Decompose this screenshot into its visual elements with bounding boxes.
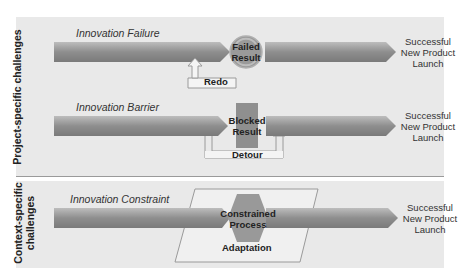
row-title-constraint: Innovation Constraint [70, 193, 169, 205]
context-label-line2: challenges [24, 196, 36, 250]
failed-result-line1: Failed [232, 41, 259, 52]
outcome-label-barrier: Successful New Product Launch [388, 110, 468, 143]
outcome-line1: Successful [405, 110, 451, 121]
outcome-line3: Launch [412, 132, 443, 143]
outcome-label-constraint: Successful New Product Launch [390, 202, 470, 235]
row-title-failure: Innovation Failure [76, 27, 159, 39]
outcome-line3: Launch [412, 58, 443, 69]
outcome-line2: New Product [401, 121, 455, 132]
outcome-line2: New Product [401, 47, 455, 58]
outcome-line1: Successful [407, 202, 453, 213]
context-label-line1: Context-specific [12, 182, 24, 264]
detour-label: Detour [232, 149, 263, 160]
constraint-output-arrow [266, 208, 398, 228]
failure-input-arrow [54, 42, 230, 62]
failed-result-label: Failed Result [226, 41, 266, 63]
blocked-result-line2: Result [232, 126, 261, 137]
failed-result-line2: Result [231, 52, 260, 63]
barrier-input-arrow [54, 116, 228, 136]
outcome-line2: New Product [403, 213, 457, 224]
outcome-line1: Successful [405, 36, 451, 47]
project-specific-label: Project-specific challenges [11, 27, 23, 167]
outcome-label-failure: Successful New Product Launch [388, 36, 468, 69]
failure-output-arrow [265, 42, 396, 62]
constraint-input-arrow [54, 208, 230, 228]
constrained-process-line1: Constrained [220, 208, 275, 219]
barrier-output-arrow [266, 116, 396, 136]
redo-label: Redo [204, 76, 228, 87]
constrained-process-label: Constrained Process [218, 208, 278, 230]
constrained-process-line2: Process [230, 219, 267, 230]
outcome-line3: Launch [414, 224, 445, 235]
blocked-result-label: Blocked Result [222, 115, 272, 137]
adaptation-label: Adaptation [222, 242, 272, 253]
blocked-result-line1: Blocked [229, 115, 266, 126]
row-title-barrier: Innovation Barrier [76, 101, 159, 113]
context-specific-label: Context-specific challenges [12, 178, 36, 268]
